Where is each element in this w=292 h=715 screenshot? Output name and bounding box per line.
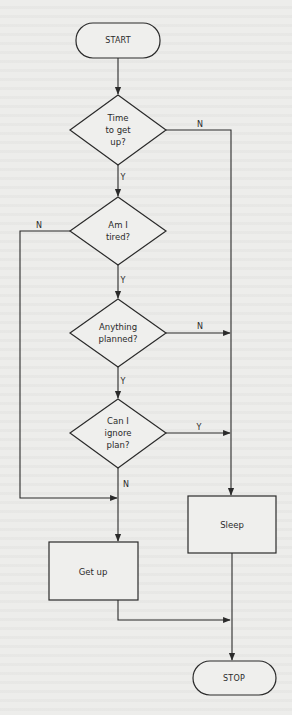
edge-time-no bbox=[166, 130, 231, 495]
edge-label-ignore-no: N bbox=[123, 480, 129, 489]
sleep-label: Sleep bbox=[220, 519, 244, 531]
edge-label-planned-no: N bbox=[197, 322, 203, 331]
nodes bbox=[49, 23, 276, 695]
edge-label-tired-no: N bbox=[36, 221, 42, 230]
get-up-label: Get up bbox=[79, 566, 108, 578]
anything-planned-label: Anything planned? bbox=[99, 321, 138, 345]
am-i-tired-label: Am I tired? bbox=[106, 219, 130, 243]
edge-tired-no bbox=[20, 231, 117, 498]
edge-label-planned-yes: Y bbox=[121, 377, 126, 386]
flowchart-canvas: START Time to get up? Am I tired? Anythi… bbox=[0, 0, 292, 715]
start-label: START bbox=[105, 35, 131, 47]
edge-label-tired-yes: Y bbox=[121, 276, 126, 285]
time-to-get-up-label: Time to get up? bbox=[105, 112, 130, 148]
edge-label-time-yes: Y bbox=[121, 173, 126, 182]
can-i-ignore-plan-label: Can I ignore plan? bbox=[105, 415, 132, 451]
edge-label-ignore-yes: Y bbox=[197, 423, 202, 432]
edge-label-time-no: N bbox=[197, 120, 203, 129]
edge-getup-to-stop bbox=[118, 600, 230, 620]
stop-label: STOP bbox=[223, 673, 245, 685]
flowchart-graphics bbox=[0, 0, 292, 715]
